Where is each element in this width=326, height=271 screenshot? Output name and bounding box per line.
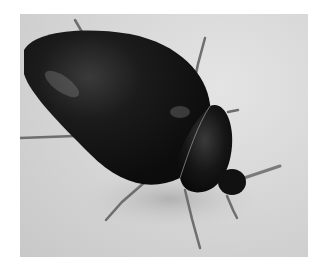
beetle-illustration: [20, 14, 308, 257]
shell-highlight-2: [170, 106, 190, 118]
beetle-photo: [20, 14, 308, 257]
beetle-head: [218, 169, 246, 195]
